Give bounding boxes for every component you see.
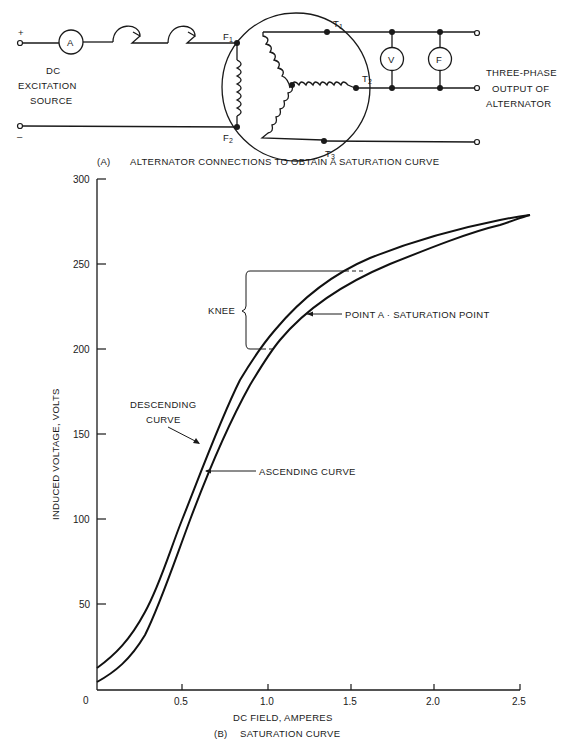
saturation-chart: 300 250 200 150 100 50 0 0.5 1.0 1.5 2.0… <box>50 174 530 739</box>
y-tick-label: 250 <box>73 259 90 270</box>
field-coil-icon <box>237 60 241 116</box>
stator-wye-winding-icon <box>262 32 355 140</box>
y-ticks <box>97 179 106 604</box>
ammeter-label: A <box>67 37 74 48</box>
y-tick-label: 150 <box>73 429 90 440</box>
ascending-label: ASCENDING CURVE <box>259 466 356 477</box>
y-tick-label: 300 <box>73 174 90 185</box>
circuit-caption-prefix: (A) <box>97 156 111 167</box>
x-axis-label: DC FIELD, AMPERES <box>233 712 333 723</box>
point-a-label: POINT A · SATURATION POINT <box>345 309 490 320</box>
output-terminal-t3-icon <box>475 140 480 145</box>
y-tick-label: 100 <box>73 514 90 525</box>
ascending-curve <box>97 215 530 682</box>
rheostat-icon <box>113 26 168 43</box>
plus-sign: + <box>18 27 24 38</box>
descending-leader <box>168 427 199 443</box>
source-label-line2: EXCITATION <box>18 80 77 91</box>
x-tick-label: 2.5 <box>512 696 526 707</box>
output-label-line3: ALTERNATOR <box>486 98 551 109</box>
figure: + A F1 DC EXCITATION SOURCE – F2 <box>0 0 561 745</box>
terminal-plus-icon <box>18 41 23 46</box>
output-label-line2: OUTPUT OF <box>492 83 549 94</box>
f2-label: F2 <box>223 132 233 144</box>
voltmeter-label: V <box>388 54 395 65</box>
source-label-line3: SOURCE <box>30 95 72 106</box>
y-axis-label: INDUCED VOLTAGE, VOLTS <box>50 388 61 520</box>
circuit-diagram: + A F1 DC EXCITATION SOURCE – F2 <box>17 13 557 167</box>
chart-caption-prefix: (B) <box>214 728 228 739</box>
t2-label: T2 <box>362 73 372 85</box>
descending-curve <box>97 215 530 668</box>
x-ticks <box>182 684 520 690</box>
terminal-minus-icon <box>18 124 23 129</box>
output-terminal-t1-icon <box>475 31 480 36</box>
x-tick-label: 0.5 <box>174 696 188 707</box>
frequency-meter-label: F <box>436 54 442 65</box>
output-terminal-t2-icon <box>475 86 480 91</box>
descending-label-line2: CURVE <box>146 414 181 425</box>
y-tick-label: 200 <box>73 344 90 355</box>
chart-title: SATURATION CURVE <box>240 728 340 739</box>
circuit-caption: ALTERNATOR CONNECTIONS TO OBTAIN A SATUR… <box>130 156 439 167</box>
minus-sign: – <box>17 131 23 142</box>
x-tick-label: 1.0 <box>260 696 274 707</box>
x-tick-label: 2.0 <box>426 696 440 707</box>
x-tick-label: 1.5 <box>343 696 357 707</box>
output-label-line1: THREE-PHASE <box>486 67 557 78</box>
descending-label-line1: DESCENDING <box>130 399 196 410</box>
y-tick-label: 0 <box>83 695 89 706</box>
f1-label: F1 <box>223 31 233 43</box>
t1-label: T1 <box>333 18 343 30</box>
knee-label: KNEE <box>208 305 235 316</box>
y-tick-label: 50 <box>79 599 91 610</box>
source-label-line1: DC <box>46 65 60 76</box>
